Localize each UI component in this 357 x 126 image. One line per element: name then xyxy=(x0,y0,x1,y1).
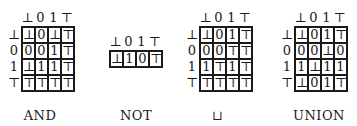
table-cell: ⊤ xyxy=(213,59,226,75)
table-cell: ⊤ xyxy=(226,43,239,59)
table-caption: UNION xyxy=(289,108,349,123)
row-label: ⊤ xyxy=(186,75,198,91)
table-cell: 0 xyxy=(35,43,48,59)
table-cell: ⊤ xyxy=(239,43,252,59)
row-label: ⊥ xyxy=(186,27,198,43)
table-cell: ⊤ xyxy=(239,27,252,43)
value-grid: ⊥01⊤00⊥01⊥11⊥01⊤ xyxy=(294,26,348,92)
row-label: 0 xyxy=(186,43,198,59)
column-header: ⊥01⊤ xyxy=(109,35,161,49)
table-cell: ⊥ xyxy=(308,59,321,75)
table-cell: ⊤ xyxy=(22,75,35,91)
table-cell: ⊥ xyxy=(110,51,123,67)
column-label: 1 xyxy=(320,11,333,25)
table-cell: 0 xyxy=(136,51,149,67)
table-cell: ⊤ xyxy=(239,75,252,91)
column-label: ⊤ xyxy=(148,35,161,49)
row-label: ⊤ xyxy=(281,75,293,91)
column-label: ⊥ xyxy=(294,11,307,25)
table-cell: 0 xyxy=(308,43,321,59)
table-cell: ⊥ xyxy=(22,59,35,75)
table-cell: 1 xyxy=(200,59,213,75)
table-cell: 0 xyxy=(213,43,226,59)
table-cell: ⊤ xyxy=(334,27,347,43)
table-cell: ⊥ xyxy=(295,27,308,43)
table-cell: 0 xyxy=(334,43,347,59)
table-cell: ⊤ xyxy=(239,59,252,75)
table-cell: ⊤ xyxy=(61,75,74,91)
row-label: 0 xyxy=(8,43,20,59)
table-cell: 0 xyxy=(308,27,321,43)
table-cell: 0 xyxy=(200,43,213,59)
value-grid: ⊥01⊤00⊤⊤1⊤1⊤⊤⊤⊤⊤ xyxy=(199,26,253,92)
table-cell: ⊥ xyxy=(48,27,61,43)
column-label: 0 xyxy=(307,11,320,25)
row-label: ⊥ xyxy=(281,27,293,43)
table-cell: ⊤ xyxy=(213,75,226,91)
table-cell: ⊤ xyxy=(149,51,162,67)
table-cell: ⊥ xyxy=(321,43,334,59)
column-label: ⊥ xyxy=(199,11,212,25)
table-cell: ⊥ xyxy=(295,75,308,91)
row-label: ⊤ xyxy=(8,75,20,91)
table-cell: ⊤ xyxy=(61,59,74,75)
column-header: ⊥01⊤ xyxy=(199,11,251,25)
row-label: 1 xyxy=(281,59,293,75)
table-cell: 0 xyxy=(308,75,321,91)
column-label: ⊤ xyxy=(60,11,73,25)
table-cell: 0 xyxy=(35,27,48,43)
table-cell: 1 xyxy=(321,27,334,43)
table-cell: ⊤ xyxy=(48,75,61,91)
table-cell: ⊤ xyxy=(200,75,213,91)
row-label: 0 xyxy=(281,43,293,59)
column-label: ⊤ xyxy=(333,11,346,25)
table-cell: ⊥ xyxy=(200,27,213,43)
column-label: ⊥ xyxy=(109,35,122,49)
row-label: 1 xyxy=(8,59,20,75)
column-label: 0 xyxy=(212,11,225,25)
table-cell: ⊤ xyxy=(35,75,48,91)
table-caption: AND xyxy=(10,108,70,123)
table-caption: NOT xyxy=(106,108,166,123)
table-cell: 0 xyxy=(295,43,308,59)
row-label: ⊥ xyxy=(8,27,20,43)
table-cell: ⊤ xyxy=(334,75,347,91)
column-label: ⊤ xyxy=(238,11,251,25)
table-cell: ⊤ xyxy=(226,75,239,91)
table-cell: 1 xyxy=(226,59,239,75)
column-header: ⊥01⊤ xyxy=(21,11,73,25)
table-cell: 1 xyxy=(321,75,334,91)
column-label: ⊥ xyxy=(21,11,34,25)
table-cell: 1 xyxy=(48,43,61,59)
value-grid: ⊥0⊥⊤001⊤⊥11⊤⊤⊤⊤⊤ xyxy=(21,26,75,92)
row-label: 1 xyxy=(186,59,198,75)
column-label: 1 xyxy=(47,11,60,25)
table-caption: ⊔ xyxy=(188,108,248,123)
table-cell: ⊤ xyxy=(61,27,74,43)
table-cell: 1 xyxy=(123,51,136,67)
table-cell: 1 xyxy=(48,59,61,75)
column-label: 1 xyxy=(225,11,238,25)
table-cell: 0 xyxy=(22,43,35,59)
table-cell: 1 xyxy=(334,59,347,75)
column-label: 1 xyxy=(135,35,148,49)
column-label: 0 xyxy=(34,11,47,25)
table-cell: 1 xyxy=(35,59,48,75)
table-cell: 1 xyxy=(321,59,334,75)
table-cell: ⊥ xyxy=(22,27,35,43)
table-cell: 1 xyxy=(226,27,239,43)
column-label: 0 xyxy=(122,35,135,49)
value-grid: ⊥10⊤ xyxy=(109,50,163,68)
table-cell: 0 xyxy=(213,27,226,43)
table-cell: 1 xyxy=(295,59,308,75)
table-cell: ⊤ xyxy=(61,43,74,59)
column-header: ⊥01⊤ xyxy=(294,11,346,25)
